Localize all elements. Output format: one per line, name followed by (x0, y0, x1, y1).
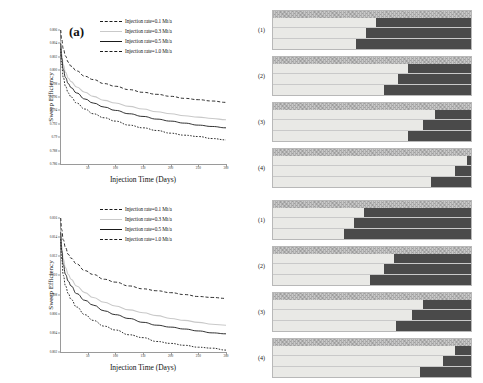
reservoir-layer (273, 300, 471, 310)
section-frame (272, 246, 472, 286)
reservoir-layer (273, 131, 471, 141)
displacement-front (364, 208, 471, 217)
caprock-layer (273, 103, 471, 110)
y-tick-label: 0.812 (50, 254, 57, 258)
section-frame (272, 102, 472, 142)
x-tick-label: 100 (113, 354, 118, 358)
y-tick-mark (58, 150, 61, 151)
y-tick-label: 0.802 (50, 350, 57, 354)
displacement-front (467, 156, 471, 165)
legend-b: Injection rate=0.1 Mt/aInjection rate=0.… (100, 204, 204, 244)
y-tick-label: 0.79 (51, 135, 57, 139)
reservoir-layer (273, 367, 471, 377)
y-tick-label: 0.814 (50, 235, 57, 239)
displacement-front (408, 64, 471, 73)
reservoir-layer (273, 39, 471, 49)
displacement-front (384, 85, 471, 95)
reservoir-section: (4) (258, 148, 472, 188)
legend-label: Injection rate=0.5 Mt/a (125, 226, 172, 232)
y-tick-mark (58, 30, 61, 31)
section-tag: (3) (258, 119, 265, 125)
caprock-layer (273, 247, 471, 254)
section-frame (272, 292, 472, 332)
caprock-layer (273, 339, 471, 346)
y-tick-mark (58, 352, 61, 353)
section-frame (272, 338, 472, 378)
legend-line-swatch (100, 31, 122, 32)
displacement-front (455, 166, 471, 175)
legend-label: Injection rate=1.0 Mt/a (125, 236, 172, 242)
x-tick-mark (171, 164, 172, 167)
y-tick-label: 0.806 (50, 28, 57, 32)
x-tick-label: 300 (223, 166, 228, 170)
x-tick-label: 150 (140, 354, 145, 358)
caprock-layer (273, 201, 471, 208)
displacement-front (354, 218, 471, 227)
x-tick-mark (198, 164, 199, 167)
section-tag: (2) (258, 73, 265, 79)
legend-label: Injection rate=0.3 Mt/a (125, 28, 172, 34)
chart-panel-a: (a) Sweep Efficiency Injection Time (Day… (12, 8, 240, 191)
caprock-layer (273, 57, 471, 64)
x-tick-mark (198, 352, 199, 355)
reservoir-layer (273, 356, 471, 366)
y-axis-title-b: Sweep Efficiency (47, 260, 55, 309)
y-tick-label: 0.808 (50, 293, 57, 297)
y-tick-mark (58, 70, 61, 71)
reservoir-sections-top: (1)(2)(3)(4) (244, 10, 476, 190)
displacement-front (384, 264, 471, 273)
displacement-front (394, 254, 471, 263)
legend-line-swatch (100, 229, 122, 230)
reservoir-sections-bottom: (1)(2)(3)(4) (244, 200, 476, 380)
x-axis-title-b: Injection Time (Days) (110, 363, 176, 372)
legend-line-swatch (100, 239, 122, 240)
x-tick-mark (143, 352, 144, 355)
reservoir-layer (273, 110, 471, 120)
data-series-line (61, 43, 226, 127)
section-frame (272, 56, 472, 96)
displacement-front (443, 356, 471, 365)
reservoir-layer (273, 321, 471, 331)
displacement-front (455, 346, 471, 355)
reservoir-layer (273, 310, 471, 320)
data-series-line (61, 49, 226, 140)
y-tick-label: 0.798 (50, 82, 57, 86)
reservoir-layer (273, 264, 471, 274)
reservoir-layer (273, 346, 471, 356)
reservoir-section: (3) (258, 102, 472, 142)
section-tag: (3) (258, 309, 265, 315)
x-tick-mark (88, 164, 89, 167)
x-tick-mark (115, 352, 116, 355)
x-tick-mark (88, 352, 89, 355)
caprock-layer (273, 149, 471, 156)
section-tag: (1) (258, 217, 265, 223)
y-tick-mark (58, 43, 61, 44)
displacement-front (435, 110, 471, 119)
displacement-front (412, 310, 471, 319)
displacement-front (398, 74, 471, 83)
x-tick-label: 300 (223, 354, 228, 358)
section-tag: (1) (258, 27, 265, 33)
displacement-front (396, 321, 471, 331)
legend-label: Injection rate=0.1 Mt/a (125, 206, 172, 212)
y-tick-mark (58, 275, 61, 276)
displacement-front (344, 229, 471, 239)
legend-label: Injection rate=0.1 Mt/a (125, 18, 172, 24)
x-tick-mark (171, 352, 172, 355)
legend-item: Injection rate=0.1 Mt/a (100, 204, 204, 214)
x-tick-label: 50 (86, 354, 89, 358)
legend-item: Injection rate=1.0 Mt/a (100, 234, 204, 244)
legend-label: Injection rate=1.0 Mt/a (125, 48, 172, 54)
reservoir-layer (273, 218, 471, 228)
y-tick-label: 0.816 (50, 216, 57, 220)
reservoir-layer (273, 18, 471, 28)
y-tick-mark (58, 237, 61, 238)
y-tick-mark (58, 110, 61, 111)
y-tick-label: 0.792 (50, 122, 57, 126)
reservoir-layer (273, 85, 471, 95)
section-tag: (4) (258, 355, 265, 361)
reservoir-section: (1) (258, 200, 472, 240)
chart-panel-b: (b) Sweep Efficiency Injection Time (Day… (12, 196, 240, 379)
x-axis-title-a: Injection Time (Days) (110, 175, 176, 184)
legend-line-swatch (100, 41, 122, 42)
